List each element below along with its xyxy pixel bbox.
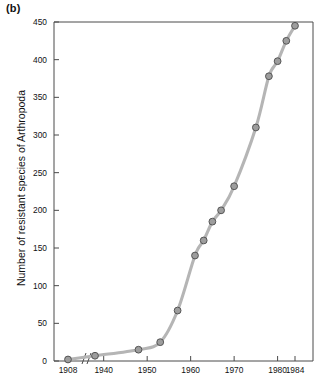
axis-frame <box>54 22 313 361</box>
y-tick-label: 0 <box>42 356 47 366</box>
x-tick-label: 1908 <box>59 365 78 375</box>
data-point-marker <box>174 307 181 314</box>
x-tick-label: 1970 <box>225 365 244 375</box>
data-point-marker <box>192 252 199 259</box>
data-point-marker <box>292 22 299 29</box>
line-chart-plot: 0501001502002503003504004501908194019501… <box>0 0 324 381</box>
data-point-marker <box>65 356 72 363</box>
data-point-marker <box>266 73 273 80</box>
data-point-marker <box>200 237 207 244</box>
y-tick-label: 300 <box>33 130 47 140</box>
data-point-marker <box>92 352 99 359</box>
y-tick-label: 450 <box>33 17 47 27</box>
data-point-marker <box>218 207 225 214</box>
x-tick-label: 1940 <box>94 365 113 375</box>
y-tick-label: 400 <box>33 55 47 65</box>
x-tick-label: 1980 <box>268 365 287 375</box>
x-tick-label: 1984 <box>286 365 305 375</box>
y-tick-label: 200 <box>33 205 47 215</box>
figure-panel-b: (b) Number of resistant species of Arthr… <box>0 0 324 381</box>
y-tick-label: 250 <box>33 168 47 178</box>
x-tick-label: 1960 <box>181 365 200 375</box>
y-tick-label: 50 <box>38 318 48 328</box>
y-tick-label: 150 <box>33 243 47 253</box>
data-point-marker <box>274 58 281 65</box>
data-point-marker <box>157 339 164 346</box>
y-tick-label: 350 <box>33 92 47 102</box>
data-point-marker <box>135 346 142 353</box>
data-point-marker <box>283 37 290 44</box>
series-line-0 <box>68 26 295 360</box>
data-point-marker <box>252 124 259 131</box>
data-point-marker <box>209 218 216 225</box>
data-point-marker <box>231 183 238 190</box>
x-tick-label: 1950 <box>138 365 157 375</box>
y-tick-label: 100 <box>33 281 47 291</box>
